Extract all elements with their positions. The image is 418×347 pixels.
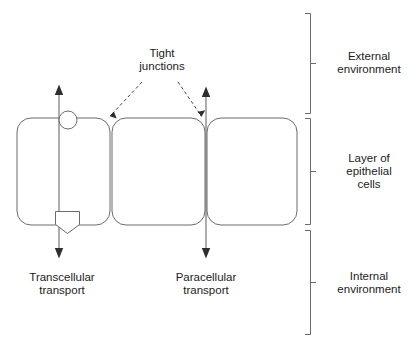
tight-junction-pointer-right bbox=[178, 82, 200, 114]
epithelial-cell-3 bbox=[207, 118, 297, 225]
label-tight-junctions: Tight junctions bbox=[120, 47, 204, 73]
arrow-head-down bbox=[202, 248, 210, 259]
epithelial-cell-2 bbox=[112, 118, 205, 225]
tight-junction-pointer-left bbox=[112, 82, 142, 114]
receptor-circle-icon bbox=[59, 111, 77, 129]
diagram-canvas: Tight junctions Transcellular transport … bbox=[0, 0, 418, 347]
epithelial-cell-1 bbox=[17, 118, 110, 225]
brace-internal-environment bbox=[305, 231, 316, 335]
transcellular-transport-arrow bbox=[55, 85, 63, 259]
arrow-head-up bbox=[55, 85, 63, 96]
label-transcellular-transport: Transcellular transport bbox=[8, 271, 116, 297]
tight-junction-pointers bbox=[112, 82, 200, 114]
label-internal-environment: Internal environment bbox=[322, 270, 416, 296]
label-external-environment: External environment bbox=[322, 50, 416, 76]
paracellular-transport-arrow bbox=[202, 87, 210, 259]
label-paracellular-transport: Paracellular transport bbox=[152, 271, 260, 297]
arrow-head-up bbox=[202, 87, 210, 98]
brace-external-environment bbox=[305, 14, 316, 114]
arrow-head-down bbox=[55, 248, 63, 259]
region-braces bbox=[305, 14, 316, 335]
label-layer-of-epithelial-cells: Layer of epithelial cells bbox=[322, 152, 416, 191]
brace-epithelial-layer bbox=[305, 119, 316, 225]
